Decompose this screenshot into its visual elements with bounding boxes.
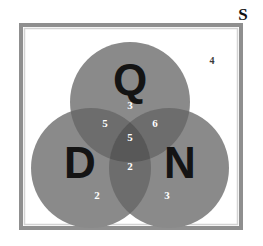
universal-set-label: S: [238, 5, 247, 24]
venn-diagram-canvas: Q D N 3 5 6 5 2 2 3 4 S: [0, 0, 263, 246]
set-label-N: N: [164, 138, 196, 187]
count-n-only: 3: [164, 189, 170, 201]
set-label-D: D: [64, 138, 96, 187]
set-label-Q: Q: [113, 55, 147, 104]
count-q-only: 3: [127, 99, 133, 111]
count-q-and-n: 6: [152, 117, 158, 129]
venn-diagram-figure: Q D N 3 5 6 5 2 2 3 4 S: [0, 0, 263, 246]
count-q-and-d: 5: [102, 117, 108, 129]
count-d-and-n: 2: [127, 160, 133, 172]
count-outside: 4: [210, 55, 215, 66]
count-q-and-d-and-n: 5: [127, 131, 133, 143]
count-d-only: 2: [94, 189, 100, 201]
